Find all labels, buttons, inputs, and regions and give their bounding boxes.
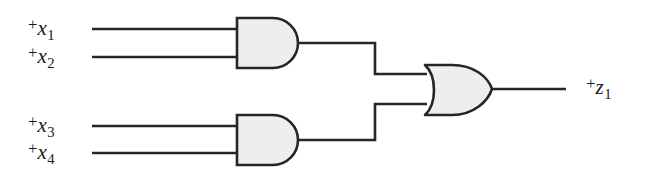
- input-variable-x4: x: [37, 140, 46, 164]
- input-variable-x3: x: [37, 113, 46, 137]
- input-variable-x2: x: [37, 44, 46, 68]
- wire-and-top-to-or: [298, 43, 427, 74]
- input-label-x1: +x1: [28, 17, 55, 42]
- output-variable-z1: z: [595, 75, 603, 99]
- output-label-z1: +z1: [586, 76, 612, 101]
- output-subscript-z1: 1: [604, 86, 611, 102]
- input-label-x3: +x3: [28, 114, 55, 139]
- logic-circuit-figure: +x1 +x2 +x3 +x4 +z1: [0, 0, 659, 172]
- and-gate-bottom: [237, 115, 298, 165]
- input-subscript-x4: 4: [47, 151, 54, 167]
- and-gate-top: [237, 18, 298, 68]
- input-subscript-x3: 3: [47, 124, 54, 140]
- wire-and-bottom-to-or: [298, 104, 427, 140]
- or-gate: [425, 65, 492, 115]
- input-subscript-x1: 1: [47, 27, 54, 43]
- input-variable-x1: x: [37, 16, 46, 40]
- circuit-schematic-svg: [0, 0, 659, 172]
- input-subscript-x2: 2: [47, 55, 54, 71]
- input-label-x2: +x2: [28, 45, 55, 70]
- input-label-x4: +x4: [28, 141, 55, 166]
